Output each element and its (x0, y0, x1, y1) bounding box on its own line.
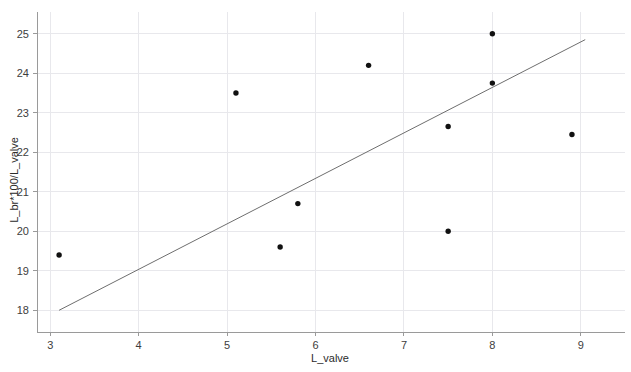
data-point (56, 252, 61, 257)
tick-marks-group (33, 34, 581, 336)
x-tick-label: 9 (578, 339, 584, 351)
y-axis-title: L_br*100/L_valve (8, 137, 20, 223)
x-tick-label: 5 (224, 339, 230, 351)
plot-canvas: 18192021222324253456789 L_valve L_br*100… (0, 0, 631, 372)
x-tick-label: 7 (401, 339, 407, 351)
data-point (233, 90, 238, 95)
trend-line-group (59, 40, 585, 311)
trend-line (59, 40, 585, 311)
y-tick-label: 25 (17, 28, 29, 40)
axes-group (37, 12, 625, 332)
y-tick-label: 24 (17, 67, 29, 79)
x-tick-label: 6 (312, 339, 318, 351)
y-tick-label: 23 (17, 107, 29, 119)
y-tick-label: 20 (17, 225, 29, 237)
x-tick-label: 3 (47, 339, 53, 351)
data-point (366, 63, 371, 68)
y-tick-label: 18 (17, 304, 29, 316)
scatter-plot-figure: 18192021222324253456789 L_valve L_br*100… (0, 0, 631, 372)
y-tick-label: 19 (17, 265, 29, 277)
data-point (490, 80, 495, 85)
data-point (569, 132, 574, 137)
data-point (295, 201, 300, 206)
x-tick-label: 4 (136, 339, 142, 351)
x-axis-title: L_valve (311, 352, 349, 364)
data-point (490, 31, 495, 36)
x-tick-label: 8 (489, 339, 495, 351)
tick-labels-group: 18192021222324253456789 (17, 28, 584, 351)
gridlines-group (37, 12, 625, 332)
data-point (445, 229, 450, 234)
data-point (445, 124, 450, 129)
data-point (277, 244, 282, 249)
